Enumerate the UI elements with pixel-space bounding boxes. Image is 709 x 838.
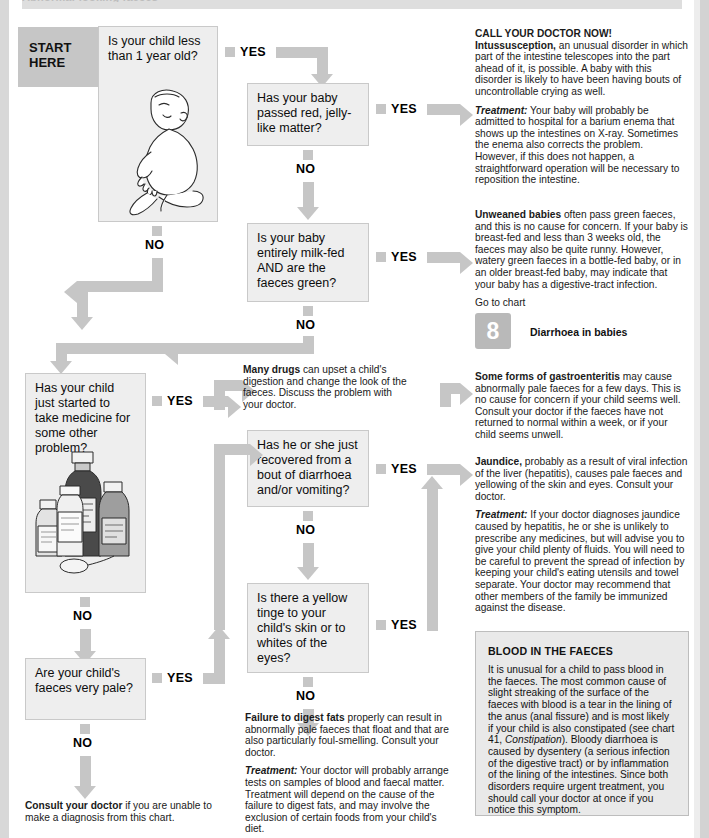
question-box-yellow-tinge[interactable]: Is there a yellow tinge to your child's … (247, 583, 369, 673)
question-box-recovered-diarrhoea[interactable]: Has he or she just recovered from a bout… (247, 430, 369, 507)
yes-label-q5: YES (391, 462, 417, 476)
no-stub-q5 (303, 511, 313, 521)
gastro-feed-h (440, 383, 460, 394)
start-label-line2: HERE (29, 55, 65, 70)
no-arrow-q3-h (178, 343, 314, 354)
yes-stub-q5 (376, 464, 386, 474)
question-text-recovered-diarrhoea: Has he or she just recovered from a bout… (248, 431, 368, 498)
term-gastroenteritis: Some forms of gastroenteritis (475, 371, 620, 382)
term-footer: Consult your doctor (25, 800, 122, 811)
yes-arrow-q6-v (427, 489, 438, 631)
yes-stub-q6 (376, 620, 386, 630)
pale-faeces-trunk-v (214, 444, 225, 630)
panel-body-part1: It is unusual for a child to pass blood … (488, 664, 674, 745)
yes-label-q4: YES (167, 394, 193, 408)
yes-stub-q7 (152, 673, 162, 683)
page-left-rail (0, 0, 9, 838)
yes-stub-q2 (376, 104, 386, 114)
yes-arrow-q5 (427, 464, 460, 475)
goto-chart-text: Go to chart (475, 297, 688, 309)
answer-jaundice: Jaundice, probably as a result of viral … (475, 456, 688, 621)
question-box-medicine[interactable]: Has your child just started to take medi… (25, 373, 146, 593)
yes-arrow-q7-v (214, 639, 225, 684)
answer-unweaned-babies: Unweaned babies often pass green faeces,… (475, 209, 688, 316)
question-box-jelly-matter[interactable]: Has your baby passed red, jelly-like mat… (247, 83, 369, 146)
question-text-yellow-tinge: Is there a yellow tinge to your child's … (248, 584, 368, 666)
question-text-milk-fed-green: Is your baby entirely milk-fed AND are t… (248, 224, 368, 291)
panel-italic-chart-ref: Constipation (505, 734, 562, 745)
yes-stub-q3 (376, 252, 386, 262)
no-stub-q7 (80, 724, 90, 734)
panel-body: It is unusual for a child to pass blood … (488, 664, 676, 816)
question-box-age[interactable]: Is your child less than 1 year old? (98, 26, 218, 222)
yes-arrow-q3-tip (460, 252, 473, 274)
no-label-q2: NO (296, 162, 315, 176)
pale-faeces-trunk-tip (250, 444, 263, 466)
medicine-bottles-illustration (34, 440, 140, 586)
no-label-q6: NO (296, 689, 315, 703)
no-stub-q6 (303, 677, 313, 687)
yes-label-q6: YES (391, 618, 417, 632)
panel-body-part2: ). Bloody diarrhoea is caused by dysente… (488, 734, 670, 815)
question-text-jelly-matter: Has your baby passed red, jelly-like mat… (248, 84, 368, 136)
no-arrow-q2 (303, 182, 314, 207)
answer-footer-consult: Consult your doctor if you are unable to… (25, 800, 230, 830)
chart-reference-badge-8[interactable]: 8 (475, 313, 511, 349)
gastro-feed-tip (460, 383, 473, 405)
term-unweaned: Unweaned babies (475, 209, 561, 220)
alert-call-doctor: CALL YOUR DOCTOR NOW! (475, 28, 612, 39)
yes-arrow-q2 (427, 104, 460, 115)
yes-label-q1: YES (240, 45, 266, 59)
no-label-q5: NO (296, 523, 315, 537)
chart-title-ghost: Abnormal-looking faeces (22, 0, 682, 2)
treatment-label-jaundice: Treatment: (475, 509, 527, 520)
no-arrow-q5-tip (297, 567, 319, 580)
question-text-pale-faeces: Are your child's faeces very pale? (26, 659, 145, 696)
no-label-q4: NO (73, 609, 92, 623)
chart-reference-label[interactable]: Diarrhoea in babies (530, 326, 627, 338)
no-label-q3: NO (296, 318, 315, 332)
pale-faeces-trunk-h (214, 444, 250, 455)
start-label-line1: START (29, 40, 71, 55)
blood-in-faeces-panel: BLOOD IN THE FAECES It is unusual for a … (475, 631, 689, 816)
answer-intussusception: CALL YOUR DOCTOR NOW! Intussusception, a… (475, 28, 688, 193)
yes-arrow-q4-tip (228, 396, 241, 418)
no-arrow-q1-h1 (77, 281, 163, 292)
answer-many-drugs: Many drugs can upset a child's digestion… (243, 364, 409, 417)
no-arrow-q1-v2 (77, 281, 88, 317)
panel-heading: BLOOD IN THE FAECES (488, 645, 676, 657)
yes-arrow-q6-tip (421, 476, 443, 489)
treatment-label-intussusception: Treatment: (475, 105, 527, 116)
no-arrow-q7-tip (74, 786, 96, 799)
baby-sitting-illustration (107, 85, 213, 217)
no-stub-q3 (303, 306, 313, 316)
no-arrow-q1-hook-tip (64, 281, 77, 303)
treatment-body-intussusception: Your baby will probably be admitted to h… (475, 105, 679, 186)
gastro-hook-h (214, 380, 242, 391)
term-jaundice: Jaundice, (475, 456, 522, 467)
term-digest-fats: Failure to digest fats (245, 712, 345, 723)
question-box-milk-fed-green[interactable]: Is your baby entirely milk-fed AND are t… (247, 223, 369, 302)
yes-arrow-q2-tip (460, 104, 473, 126)
no-stub-q4 (80, 597, 90, 607)
no-label-q1: NO (145, 238, 164, 252)
trunk-to-q4-h (56, 343, 178, 354)
answer-digest-fats: Failure to digest fats properly can resu… (245, 712, 450, 838)
page-right-rail (700, 0, 709, 838)
term-intussusception: Intussusception, (475, 40, 556, 51)
yes-arrow-q5-tip (460, 464, 473, 486)
no-arrow-q4 (80, 629, 91, 651)
no-label-q7: NO (73, 736, 92, 750)
no-arrow-q1-v2-tip (71, 317, 93, 330)
yes-label-q2: YES (391, 102, 417, 116)
answer-gastroenteritis: Some forms of gastroenteritis may cause … (475, 371, 688, 448)
treatment-label-digest-fats: Treatment: (245, 765, 297, 776)
yes-arrow-q3 (427, 252, 460, 263)
question-box-pale-faeces[interactable]: Are your child's faeces very pale? (25, 658, 146, 720)
term-many-drugs: Many drugs (243, 364, 300, 375)
yes-stub-q4 (152, 396, 162, 406)
no-stub-q1 (152, 226, 162, 236)
start-here-marker: START HERE (18, 27, 102, 87)
question-text-age: Is your child less than 1 year old? (99, 27, 217, 64)
no-arrow-q2-tip (297, 207, 319, 220)
